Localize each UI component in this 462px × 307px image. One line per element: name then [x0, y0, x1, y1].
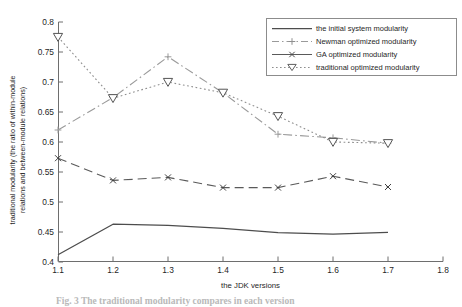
legend-item-traditional: traditional optimized modularity	[267, 61, 456, 74]
legend-item-ga: GA optimized modularity	[267, 48, 456, 61]
legend-label: the initial system modularity	[313, 24, 408, 33]
x-tick-label: 1.1	[52, 265, 64, 275]
y-tick-label: 0.5	[42, 197, 54, 207]
solid-line-icon	[271, 22, 313, 35]
y-tick-label: 0.7	[42, 77, 54, 87]
legend-item-initial-system: the initial system modularity	[267, 22, 456, 35]
legend-item-newman: Newman optimized modularity	[267, 35, 456, 48]
series-dashed	[55, 155, 391, 190]
x-tick-label: 1.8	[437, 265, 449, 275]
legend-label: traditional optimized modularity	[313, 63, 419, 72]
dotted-triangle-line-icon	[271, 61, 313, 74]
y-tick-label: 0.6	[42, 137, 54, 147]
legend-label: GA optimized modularity	[313, 50, 397, 59]
y-axis-title-line-1: traditional modularity (the ratio of wit…	[9, 25, 19, 275]
x-axis-title: the JDK versions	[58, 281, 443, 290]
x-tick-label: 1.4	[217, 265, 229, 275]
figure-caption: Fig. 3 The traditional modularity compar…	[56, 296, 456, 306]
y-tick-label: 0.8	[42, 17, 54, 27]
x-tick-label: 1.5	[272, 265, 284, 275]
y-axis-title-line-2: relations and between-module relations)	[19, 25, 29, 275]
legend-label: Newman optimized modularity	[313, 37, 416, 46]
series-solid	[58, 224, 388, 255]
x-tick-label: 1.3	[162, 265, 174, 275]
solid-cross-line-icon	[271, 48, 313, 61]
x-tick-label: 1.2	[107, 265, 119, 275]
y-tick-label: 0.75	[38, 47, 54, 57]
y-tick-label: 0.45	[38, 227, 54, 237]
y-tick-label: 0.55	[38, 167, 54, 177]
y-tick-label: 0.65	[38, 107, 54, 117]
dash-dot-plus-line-icon	[271, 35, 313, 48]
y-axis-title: traditional modularity (the ratio of wit…	[9, 25, 39, 275]
x-tick-label: 1.7	[382, 265, 394, 275]
x-tick-label: 1.6	[327, 265, 339, 275]
figure-container: traditional modularity (the ratio of wit…	[0, 0, 462, 307]
legend-box: the initial system modularity Newman opt…	[266, 18, 457, 76]
